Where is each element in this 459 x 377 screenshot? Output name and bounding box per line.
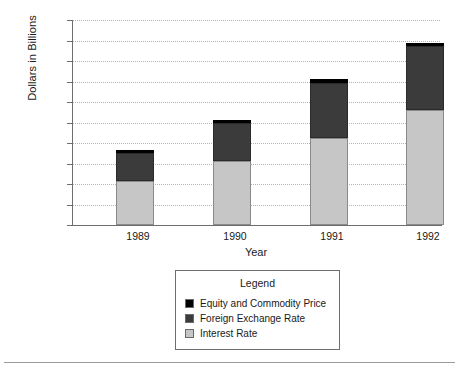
y-axis-tick	[67, 205, 73, 206]
gridline	[73, 41, 440, 42]
legend-swatch-icon	[185, 299, 194, 308]
gridline	[73, 61, 440, 62]
y-axis-title: Dollars in Billions	[26, 0, 38, 138]
x-axis-line	[70, 225, 442, 226]
legend-item[interactable]: Foreign Exchange Rate	[185, 311, 339, 326]
bar-segment[interactable]	[213, 120, 251, 123]
x-axis-title: Year	[72, 246, 440, 258]
bar-segment[interactable]	[310, 83, 348, 138]
bar-segment[interactable]	[406, 46, 444, 111]
y-axis-tick	[67, 82, 73, 83]
x-axis-tick-label: 1992	[393, 230, 459, 242]
legend-title: Legend	[176, 277, 339, 289]
y-axis-tick	[67, 143, 73, 144]
legend-item-label: Interest Rate	[200, 328, 257, 339]
stacked-bar-chart: Dollars in Billions 02000400060008000100…	[0, 0, 459, 377]
legend-item[interactable]: Interest Rate	[185, 326, 339, 341]
gridline	[73, 20, 440, 21]
legend: Legend Equity and Commodity PriceForeign…	[175, 270, 340, 350]
legend-item[interactable]: Equity and Commodity Price	[185, 296, 339, 311]
legend-swatch-icon	[185, 314, 194, 323]
gridline	[73, 123, 440, 124]
bar-segment[interactable]	[116, 181, 154, 225]
bar-segment[interactable]	[116, 150, 154, 153]
y-axis-tick	[67, 61, 73, 62]
legend-item-label: Foreign Exchange Rate	[200, 313, 305, 324]
y-axis-tick	[67, 164, 73, 165]
legend-item-label: Equity and Commodity Price	[200, 298, 326, 309]
bar-segment[interactable]	[310, 138, 348, 225]
y-axis-tick	[67, 102, 73, 103]
x-axis-tick-label: 1989	[103, 230, 173, 242]
y-axis-tick	[67, 41, 73, 42]
bar-segment[interactable]	[310, 79, 348, 82]
bar-segment[interactable]	[406, 110, 444, 225]
gridline	[73, 102, 440, 103]
gridline	[73, 143, 440, 144]
bar-segment[interactable]	[213, 123, 251, 162]
bar-segment[interactable]	[406, 43, 444, 46]
y-axis-tick	[67, 184, 73, 185]
y-axis-tick	[67, 20, 73, 21]
bar-segment[interactable]	[213, 161, 251, 225]
y-axis-tick	[67, 225, 73, 226]
x-axis-tick-label: 1991	[297, 230, 367, 242]
gridline	[73, 82, 440, 83]
bar-segment[interactable]	[116, 153, 154, 181]
x-axis-tick-label: 1990	[200, 230, 270, 242]
y-axis-tick	[67, 123, 73, 124]
legend-swatch-icon	[185, 329, 194, 338]
footer-divider	[4, 362, 455, 363]
legend-items: Equity and Commodity PriceForeign Exchan…	[176, 296, 339, 341]
plot-area: 0200040006000800010000120001400016000180…	[72, 20, 440, 225]
